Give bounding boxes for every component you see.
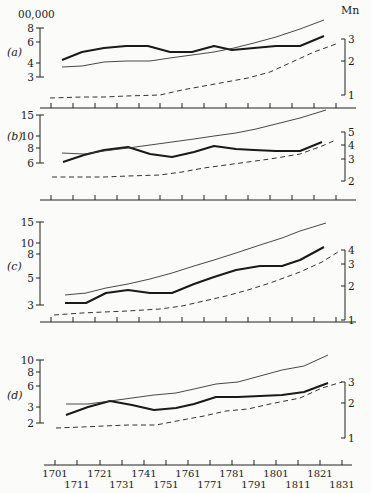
panel-a-left-tick: 4 — [27, 57, 34, 69]
panel-b-right-axis — [341, 132, 345, 181]
panel-d-thick-series — [66, 383, 328, 415]
x-tick-label: 1761 — [175, 468, 200, 479]
panel-b-left-tick: 8 — [27, 142, 34, 154]
x-tick-label: 1731 — [109, 479, 134, 490]
x-tick-label: 1801 — [263, 468, 288, 479]
panel-d-left-tick: 3 — [27, 401, 34, 413]
panel-b-dashed-series — [52, 140, 336, 177]
x-tick-label: 1721 — [87, 468, 112, 479]
x-tick-label: 1821 — [307, 468, 332, 479]
right-unit-label: Mn — [341, 4, 359, 17]
panel-a-left-tick: 8 — [27, 22, 34, 34]
chart-canvas: 00,000 Mn (a) 8 6 4 3 3 2 1 — [0, 0, 371, 493]
panel-c-left-axis — [40, 222, 44, 305]
panel-b-thick-series — [63, 142, 322, 162]
panel-c-right-tick: 1 — [348, 314, 355, 326]
panel-b-thin-series — [62, 110, 326, 154]
panel-c-right-tick: 3 — [348, 258, 355, 270]
x-tick-label: 1701 — [42, 468, 67, 479]
panel-b-left-tick: 6 — [27, 157, 34, 169]
panel-d-right-tick: 1 — [348, 432, 355, 444]
x-tick-label: 1711 — [64, 479, 89, 490]
panel-a-left-axis — [40, 28, 44, 77]
panel-d-left-tick: 2 — [27, 417, 34, 429]
x-tick-label: 1751 — [153, 479, 178, 490]
panel-a-thick-series — [62, 36, 324, 60]
panel-c-right-tick: 4 — [348, 244, 355, 256]
panel-a-left-tick: 6 — [27, 36, 34, 48]
panel-d-left-tick: 10 — [21, 354, 34, 366]
panel-d-right-axis — [341, 382, 345, 438]
panel-c-left-tick: 3 — [27, 299, 34, 311]
panel-d-left-tick: 6 — [27, 380, 34, 392]
panel-c-left-tick: 15 — [21, 216, 34, 228]
panel-b-right-tick: 2 — [348, 175, 355, 187]
panel-a-right-tick: 3 — [348, 33, 355, 45]
panel-a-thin-series — [62, 20, 324, 67]
panel-d-right-tick: 2 — [348, 397, 355, 409]
panel-a-label: (a) — [7, 46, 22, 59]
panel-a-right-tick: 1 — [348, 89, 355, 101]
x-tick-label: 1831 — [329, 479, 354, 490]
panel-c-thick-series — [65, 247, 324, 303]
panel-c-label: (c) — [7, 260, 22, 273]
panel-d-right-tick: 3 — [348, 376, 355, 388]
panel-c: (c) 15 10 8 5 3 4 3 2 1 — [7, 216, 356, 326]
panel-b-left-tick: 10 — [21, 130, 34, 142]
left-unit-label: 00,000 — [18, 8, 55, 20]
panel-b: (b) 15 10 8 6 5 4 3 2 — [7, 109, 356, 200]
panel-a-right-axis — [341, 39, 345, 95]
x-tick-label: 1791 — [241, 479, 266, 490]
panel-b-right-tick: 3 — [348, 153, 355, 165]
panel-c-left-tick: 8 — [27, 248, 34, 260]
panel-d: (d) 10 8 6 3 2 3 2 1 — [7, 354, 355, 444]
panel-b-right-tick: 4 — [348, 139, 355, 151]
panel-d-left-axis — [40, 360, 44, 423]
panel-c-left-tick: 5 — [27, 272, 34, 284]
x-tick-label: 1811 — [285, 479, 310, 490]
panel-c-right-axis — [341, 250, 345, 320]
panel-b-left-axis — [40, 115, 44, 163]
panel-d-left-tick: 8 — [27, 366, 34, 378]
panel-c-right-tick: 2 — [348, 280, 355, 292]
x-tick-label: 1741 — [131, 468, 156, 479]
x-tick-label: 1771 — [197, 479, 222, 490]
x-tick-label: 1781 — [219, 468, 244, 479]
panel-a: (a) 8 6 4 3 3 2 1 — [7, 20, 356, 108]
panel-a-right-tick: 2 — [348, 55, 355, 67]
panel-b-left-tick: 15 — [21, 109, 34, 121]
panel-b-right-tick: 5 — [348, 126, 355, 138]
x-axis: 1701 1721 1741 1761 1781 1801 1821 1711 … — [42, 460, 354, 490]
panel-d-label: (d) — [7, 389, 23, 402]
panel-a-left-tick: 3 — [27, 71, 34, 83]
panel-d-thin-series — [66, 355, 328, 404]
